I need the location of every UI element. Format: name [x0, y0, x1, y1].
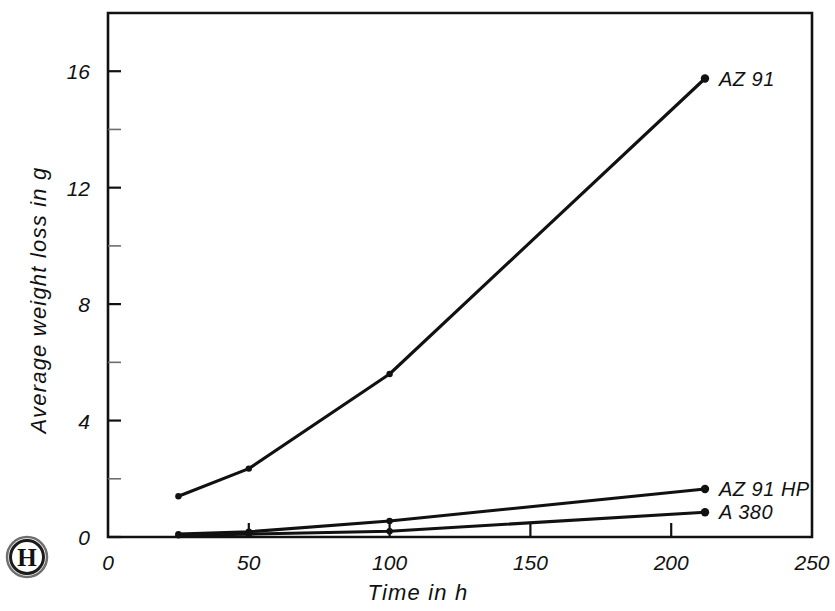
- x-tick-label-200: 200: [653, 551, 689, 574]
- x-tick-label-150: 150: [513, 551, 548, 574]
- series-label-a-380: A 380: [718, 501, 773, 523]
- chart-figure: 050100150200250 0481216 AZ 91AZ 91 HPA 3…: [0, 0, 835, 611]
- series-label-az-91-hp: AZ 91 HP: [718, 478, 810, 500]
- axis-frame: [108, 13, 812, 537]
- logo-letter: H: [17, 544, 37, 571]
- y-axis-title: Average weight loss in g: [26, 167, 51, 436]
- tick-marks: [108, 71, 671, 537]
- y-tick-label-8: 8: [78, 293, 90, 316]
- publisher-logo-icon: H: [5, 535, 49, 579]
- series-labels-group: AZ 91AZ 91 HPA 380: [718, 68, 810, 524]
- series-line-az-91: [178, 79, 705, 497]
- x-tick-label-250: 250: [793, 551, 829, 574]
- line-chart: 050100150200250 0481216 AZ 91AZ 91 HPA 3…: [0, 0, 835, 611]
- y-tick-label-4: 4: [78, 410, 90, 433]
- x-axis-tick-labels: 050100150200250: [102, 551, 830, 574]
- x-tick-label-100: 100: [372, 551, 407, 574]
- y-tick-label-12: 12: [67, 177, 91, 200]
- y-tick-label-0: 0: [78, 526, 90, 549]
- x-axis-title: Time in h: [367, 580, 468, 605]
- data-series-group: [175, 74, 709, 538]
- y-axis-tick-labels: 0481216: [67, 60, 91, 549]
- axis-frame-rect: [108, 13, 812, 537]
- y-tick-label-16: 16: [67, 60, 91, 83]
- series-label-az-91: AZ 91: [718, 68, 775, 90]
- x-tick-label-0: 0: [102, 551, 114, 574]
- x-tick-label-50: 50: [237, 551, 261, 574]
